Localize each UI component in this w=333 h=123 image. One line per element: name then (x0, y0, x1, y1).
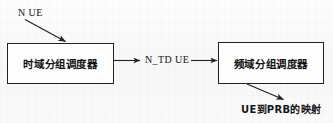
diagram-canvas: 时域分组调度器 频域分组调度器 N UE N_TD UE UE到PRB的映射 (0, 0, 333, 123)
output-label-ue-to-prb-mapping: UE到PRB的映射 (241, 101, 321, 116)
input-arrow (25, 20, 66, 42)
output-arrow (247, 84, 284, 100)
node-time-domain-scheduler-label: 时域分组调度器 (23, 56, 97, 71)
node-frequency-domain-scheduler[interactable]: 频域分组调度器 (218, 42, 324, 84)
input-label-n-ue: N UE (18, 7, 43, 18)
node-frequency-domain-scheduler-label: 频域分组调度器 (234, 56, 308, 71)
intermediate-label-n-td-ue: N_TD UE (145, 54, 189, 65)
node-time-domain-scheduler[interactable]: 时域分组调度器 (7, 43, 114, 84)
